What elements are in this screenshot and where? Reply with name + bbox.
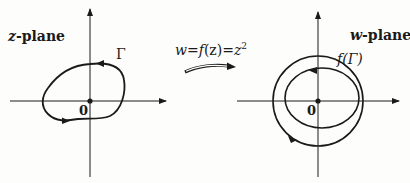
f-gamma-label: f(Γ) <box>336 51 363 67</box>
mapping-diagram: z-plane Γ 0 w=f(z)=z2 w-plane f(Γ) 0 <box>0 0 410 183</box>
gamma-label: Γ <box>116 46 126 62</box>
mapping-formula: w=f(z)=z2 <box>175 41 247 58</box>
gamma-arrow-bottom-icon <box>62 118 70 125</box>
w-origin-label: 0 <box>307 103 316 118</box>
w-origin-dot <box>315 98 320 103</box>
mapping: w=f(z)=z2 <box>175 41 247 72</box>
z-origin-dot <box>87 98 92 103</box>
w-plane-title: w-plane <box>350 27 410 43</box>
f-gamma-inner-loop <box>285 68 359 128</box>
gamma-arrow-top-icon <box>96 60 104 67</box>
f-gamma-arrow-outer-icon <box>288 136 297 143</box>
z-plane-title: z-plane <box>7 28 65 44</box>
z-origin-label: 0 <box>79 103 88 118</box>
w-plane: w-plane f(Γ) 0 <box>237 12 410 177</box>
z-plane: z-plane Γ 0 <box>7 9 166 177</box>
